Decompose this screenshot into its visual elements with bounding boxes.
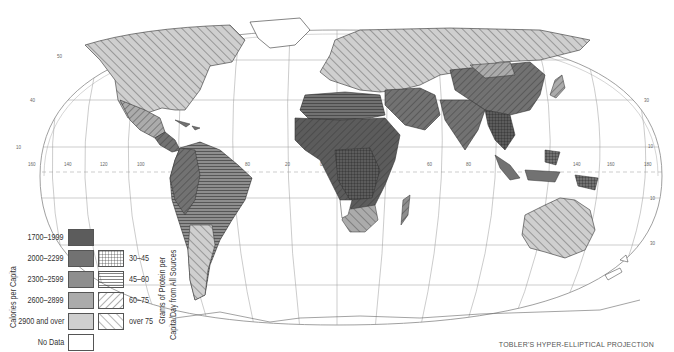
swatch-2600-2899 <box>68 292 94 309</box>
legend-calories-item: 2300–2599 <box>0 270 94 288</box>
legend-protein-item: 45–60 <box>98 270 153 288</box>
legend-protein-title-line2: Capita/Day from All Sources <box>168 250 178 340</box>
svg-text:140: 140 <box>64 162 72 167</box>
legend-protein-item: over 75 <box>98 312 157 330</box>
swatch-2300-2599 <box>68 271 94 288</box>
svg-text:100: 100 <box>137 162 145 167</box>
svg-text:10: 10 <box>648 144 654 149</box>
svg-text:80: 80 <box>245 162 251 167</box>
swatch-diagonal-back-pattern <box>98 313 124 330</box>
svg-text:10: 10 <box>650 196 656 201</box>
region-greenland <box>250 18 310 48</box>
svg-text:160: 160 <box>607 162 615 167</box>
svg-text:80: 80 <box>466 162 472 167</box>
swatch-grid-pattern <box>98 250 124 267</box>
svg-text:140: 140 <box>573 162 581 167</box>
svg-text:120: 120 <box>100 162 108 167</box>
legend-calories-item: No Data <box>0 333 94 351</box>
svg-text:20: 20 <box>285 162 291 167</box>
projection-label: TOBLER'S HYPER-ELLIPTICAL PROJECTION <box>499 341 654 348</box>
swatch-2900-over <box>68 313 94 330</box>
swatch-horizontal-pattern <box>98 271 124 288</box>
svg-text:10: 10 <box>16 145 22 150</box>
swatch-2000-2299 <box>68 250 94 267</box>
svg-text:30: 30 <box>650 241 656 246</box>
legend-protein-title-line1: Grams of Protein per <box>157 257 167 324</box>
svg-text:50: 50 <box>57 54 63 59</box>
legend-calories-item: 2600–2899 <box>0 291 94 309</box>
swatch-1700-1999 <box>68 229 94 246</box>
svg-text:40: 40 <box>30 98 36 103</box>
region-antarctica <box>175 300 640 322</box>
svg-text:30: 30 <box>644 98 650 103</box>
svg-text:180: 180 <box>644 162 652 167</box>
legend-protein-item: 60–75 <box>98 291 153 309</box>
swatch-diagonal-forward-pattern <box>98 292 124 309</box>
svg-text:60: 60 <box>427 162 433 167</box>
svg-text:160: 160 <box>28 162 36 167</box>
legend-calories-item: 1700–1999 <box>0 228 94 246</box>
legend-calories-item: 2900 and over <box>0 312 94 330</box>
region-new-zealand <box>605 255 628 280</box>
legend-calories-item: 2000–2299 <box>0 249 94 267</box>
swatch-no-data <box>68 334 94 351</box>
legend: Calories per Capita 1700–1999 2000–2299 … <box>0 226 230 346</box>
legend-protein-item: 30–45 <box>98 249 153 267</box>
